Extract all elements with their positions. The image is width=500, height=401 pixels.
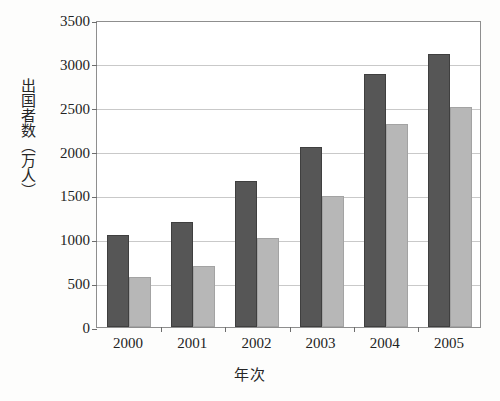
bar-light-series-2000 [129, 277, 151, 327]
x-axis-tick-label: 2004 [353, 334, 417, 352]
bar-group [354, 22, 418, 327]
bar-light-series-2005 [450, 107, 472, 327]
bar-dark-series-2004 [364, 74, 386, 327]
bar-group [161, 22, 225, 327]
bar-chart-figure: 出国者数（万人） 0500100015002000250030003500 20… [0, 0, 500, 401]
x-axis-tick-label: 2002 [224, 334, 288, 352]
y-axis-tick-label: 2500 [42, 102, 90, 117]
x-axis-tick [225, 327, 226, 332]
bar-dark-series-2002 [235, 181, 257, 327]
bar-light-series-2002 [257, 238, 279, 327]
x-axis-tick [161, 327, 162, 332]
x-axis-tick-label: 2003 [289, 334, 353, 352]
bar-group [225, 22, 289, 327]
x-axis-tick [290, 327, 291, 332]
bar-dark-series-2001 [171, 222, 193, 327]
bar-light-series-2004 [386, 124, 408, 327]
bar-group [418, 22, 482, 327]
x-axis-title: 年次 [0, 366, 500, 384]
bar-dark-series-2003 [300, 147, 322, 327]
bar-group [290, 22, 354, 327]
x-axis-tick [354, 327, 355, 332]
bar-light-series-2003 [322, 196, 344, 327]
bar-dark-series-2000 [107, 235, 129, 327]
plot-area [96, 21, 481, 328]
y-axis-tick-label: 1500 [42, 189, 90, 204]
y-axis-tick-label: 0 [42, 321, 90, 336]
y-axis-tick-label: 1000 [42, 233, 90, 248]
y-axis-tick [92, 329, 97, 330]
x-axis-tick-label: 2005 [417, 334, 481, 352]
y-axis-title: 出国者数（万人） [6, 78, 36, 198]
y-axis-tick-labels: 0500100015002000250030003500 [38, 0, 90, 401]
y-axis-tick-label: 500 [42, 277, 90, 292]
bar-group [97, 22, 161, 327]
x-axis-tick-label: 2000 [96, 334, 160, 352]
x-axis-tick-label: 2001 [160, 334, 224, 352]
x-axis-tick [418, 327, 419, 332]
y-axis-tick-label: 2000 [42, 146, 90, 161]
y-axis-tick-label: 3500 [42, 14, 90, 29]
bar-dark-series-2005 [428, 54, 450, 327]
x-axis-tick-labels: 200020012002200320042005 [96, 334, 481, 358]
y-axis-tick-label: 3000 [42, 58, 90, 73]
bar-light-series-2001 [193, 266, 215, 327]
